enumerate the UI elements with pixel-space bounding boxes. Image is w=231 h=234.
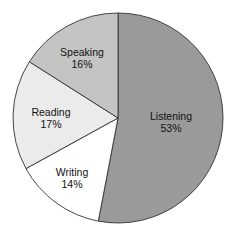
slice-name: Reading	[31, 106, 70, 118]
slice-name: Speaking	[60, 46, 104, 58]
slice-label-speaking: Speaking 16%	[60, 46, 104, 70]
slice-name: Writing	[56, 166, 88, 178]
slice-percent: 14%	[56, 178, 88, 190]
slice-percent: 17%	[31, 118, 70, 130]
slice-label-reading: Reading 17%	[31, 106, 70, 130]
slice-percent: 16%	[60, 58, 104, 70]
pie-chart: Listening 53% Writing 14% Reading 17% Sp…	[0, 0, 231, 234]
slice-label-listening: Listening 53%	[150, 110, 192, 134]
slice-percent: 53%	[150, 122, 192, 134]
slice-label-writing: Writing 14%	[56, 166, 88, 190]
slice-name: Listening	[150, 110, 192, 122]
